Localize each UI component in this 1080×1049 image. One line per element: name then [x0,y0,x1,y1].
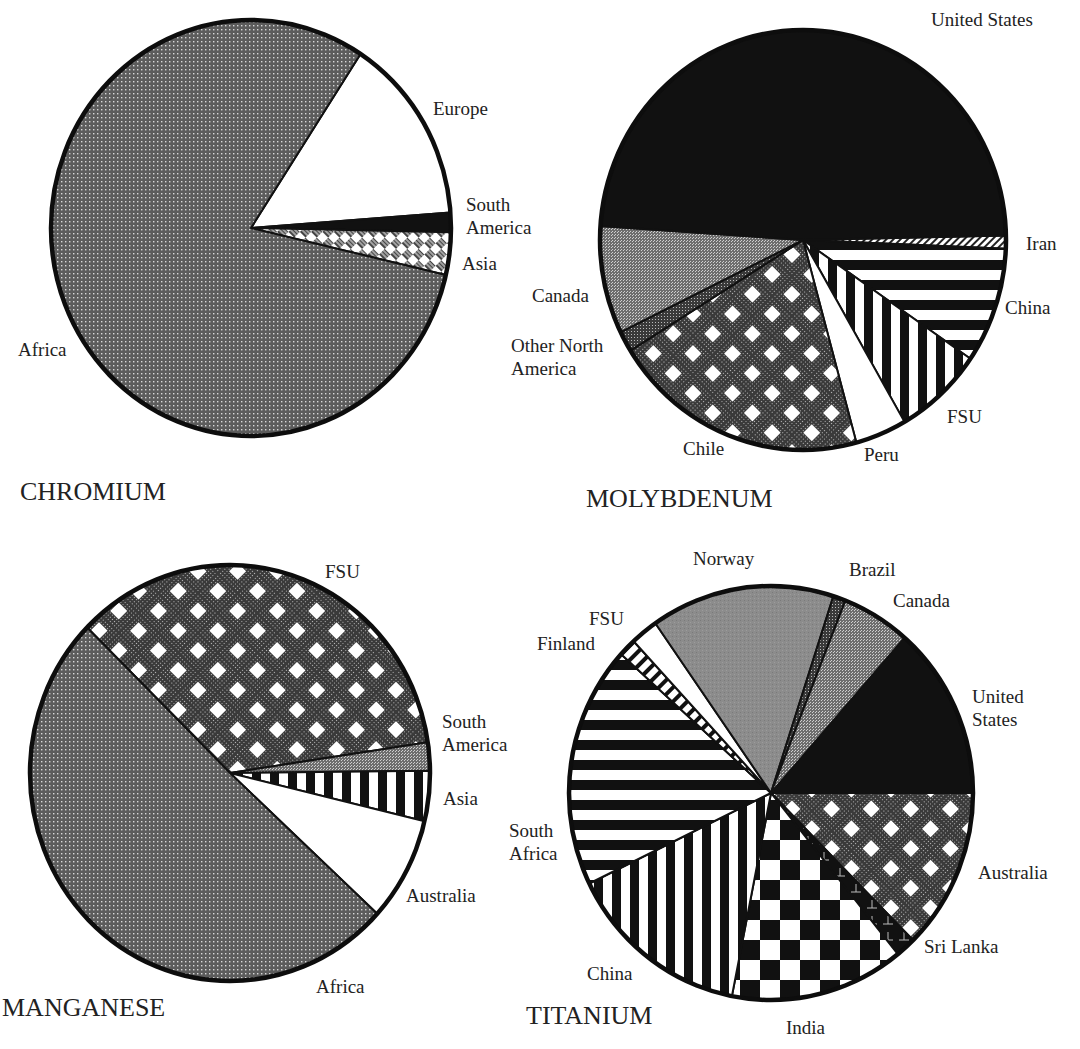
slice-label-united-states: United States [931,8,1033,31]
slice-label-europe: Europe [433,97,488,120]
slice-label-peru: Peru [864,443,899,466]
slice-label-south-africa: South Africa [509,819,558,865]
slice-label-brazil: Brazil [849,558,895,581]
slice-label-asia: Asia [462,252,497,275]
slice-label-india: India [786,1016,825,1039]
slice-label-china: China [587,962,632,985]
slice-label-south-america: South America [466,193,531,239]
slice-label-canada: Canada [893,589,950,612]
slice-label-asia: Asia [443,787,478,810]
chart-title-manganese: MANGANESE [2,993,165,1023]
slice-label-fsu: FSU [325,560,360,583]
slice-label-australia: Australia [978,861,1048,884]
chart-title-chromium: CHROMIUM [20,477,166,507]
slice-label-africa: Africa [316,975,365,998]
slice-label-chile: Chile [683,437,724,460]
slice-label-australia: Australia [406,884,476,907]
slice-label-norway: Norway [693,547,754,570]
slice-label-africa: Africa [18,338,67,361]
slice-united-states [600,30,1006,240]
pie-molybdenum [600,30,1006,450]
chart-title-molybdenum: MOLYBDENUM [586,484,773,514]
chart-title-titanium: TITANIUM [526,1001,652,1031]
slice-label-china: China [1005,296,1050,319]
pie-charts [0,0,1080,1049]
slice-label-finland: Finland [537,632,595,655]
slice-label-other-north-america: Other North America [511,334,603,380]
slice-label-united-states: United States [972,685,1024,731]
slice-label-fsu: FSU [947,405,982,428]
pie-manganese [30,565,430,981]
slice-label-canada: Canada [532,284,589,307]
pie-chromium [51,20,451,436]
pie-titanium [569,586,973,1000]
slice-label-fsu: FSU [589,607,624,630]
slice-label-sri-lanka: Sri Lanka [924,935,998,958]
slice-label-south-america: South America [442,710,507,756]
slice-label-iran: Iran [1026,232,1057,255]
figure: EuropeSouth AmericaAsiaAfricaCHROMIUMUni… [0,0,1080,1049]
